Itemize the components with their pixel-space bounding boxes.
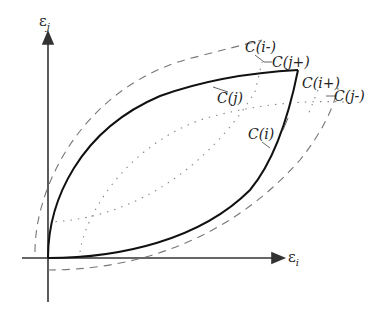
label-c-i: C(i) — [248, 127, 274, 141]
curve-c-j-minus-lower — [48, 88, 338, 270]
dotted-curves — [48, 62, 345, 252]
diagram-canvas — [0, 0, 376, 318]
curve-c-i-minus-upper — [35, 40, 262, 252]
label-c-i-minus: C(i-) — [245, 40, 276, 54]
leader-c-j-plus-dotted — [255, 62, 262, 92]
leader-c-i-plus-dotted — [308, 90, 318, 115]
x-axis-label: εi — [288, 250, 299, 268]
label-c-j-minus: C(j-) — [334, 89, 365, 103]
dashed-curves — [35, 40, 338, 270]
y-axis-label: εj — [39, 14, 50, 32]
label-c-j: C(j) — [217, 91, 243, 105]
label-c-j-plus: C(j+) — [272, 55, 310, 69]
x-axis-arrow-icon — [272, 253, 284, 263]
curve-c-j-plus-dotted — [48, 92, 255, 222]
y-axis-arrow-icon — [43, 32, 53, 44]
